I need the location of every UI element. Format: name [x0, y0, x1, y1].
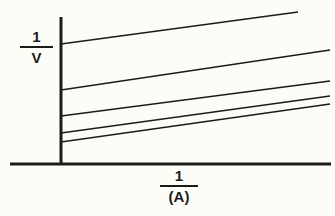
- y-axis-label: 1 V: [20, 28, 53, 67]
- x-axis-label-numerator: 1: [172, 167, 186, 184]
- y-axis-label-denominator: V: [28, 49, 44, 67]
- figure-root: 1 V 1 (A): [0, 0, 335, 216]
- y-axis-label-fraction-bar: [20, 46, 53, 48]
- y-axis-label-numerator: 1: [29, 28, 43, 45]
- x-axis-label-fraction-bar: [160, 185, 198, 187]
- x-axis-label-denominator: (A): [166, 188, 193, 206]
- x-axis-label: 1 (A): [160, 167, 198, 206]
